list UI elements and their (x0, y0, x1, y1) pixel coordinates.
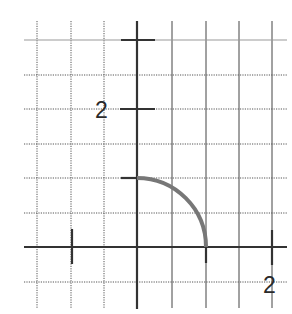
x-axis-label-2: 2 (263, 272, 276, 298)
coordinate-plane-figure: 2 2 (0, 0, 292, 314)
axes (24, 21, 287, 309)
y-axis-label-2: 2 (95, 97, 108, 123)
grid (24, 21, 287, 308)
